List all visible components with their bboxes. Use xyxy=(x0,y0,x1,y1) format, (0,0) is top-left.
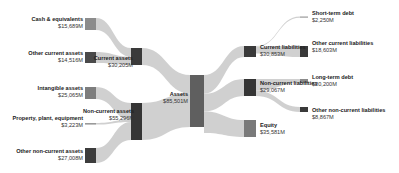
node-value-ppe: $3,223M xyxy=(61,122,83,128)
sankey-node-noncurrent_liab[interactable] xyxy=(244,79,256,96)
node-label-short_debt: Short-term debt xyxy=(312,10,354,16)
node-label-assets: Assets xyxy=(170,91,188,97)
node-label-other_ncl: Other non-current liabilities xyxy=(312,107,385,113)
node-value-current_liab: $30,853M xyxy=(260,51,285,57)
node-value-intangible: $25,065M xyxy=(58,92,83,98)
node-label-other_cl: Other current liabilities xyxy=(312,40,373,46)
node-value-noncurrent_assets: $55,296M xyxy=(109,115,134,121)
sankey-link-cash-to-current_assets xyxy=(96,18,131,57)
node-value-other_nca: $27,008M xyxy=(58,155,83,161)
sankey-node-cash[interactable] xyxy=(85,18,96,30)
node-value-other_ncl: $8,867M xyxy=(312,114,334,120)
node-label-long_debt: Long-term debt xyxy=(312,74,353,80)
sankey-node-assets[interactable] xyxy=(190,75,204,127)
node-value-noncurrent_liab: $29,067M xyxy=(260,87,285,93)
sankey-node-current_liab[interactable] xyxy=(244,46,256,57)
node-value-short_debt: $2,250M xyxy=(312,17,334,23)
node-label-equity: Equity xyxy=(260,122,278,128)
sankey-node-ppe[interactable] xyxy=(85,123,96,125)
node-label-intangible: Intangible assets xyxy=(38,85,83,91)
sankey-link-assets-to-equity xyxy=(204,111,244,137)
node-value-long_debt: $20,200M xyxy=(312,81,337,87)
node-value-assets: $85,501M xyxy=(163,98,188,104)
node-value-cash: $15,689M xyxy=(58,23,83,29)
sankey-link-current_liab-to-short_debt xyxy=(256,17,300,47)
node-label-noncurrent_liab: Non-current liabilities xyxy=(260,80,318,86)
node-label-current_liab: Current liabilities xyxy=(260,44,306,50)
sankey-link-other_nca-to-noncurrent_assets xyxy=(96,122,131,163)
sankey-node-equity[interactable] xyxy=(244,120,256,137)
node-label-current_assets: Current assets xyxy=(94,55,133,61)
node-value-equity: $35,581M xyxy=(260,129,285,135)
node-value-other_cl: $18,603M xyxy=(312,47,337,53)
sankey-node-other_ncl[interactable] xyxy=(300,107,308,112)
node-label-noncurrent_assets: Non-current assets xyxy=(83,108,134,114)
node-value-other_ca: $14,516M xyxy=(58,57,83,63)
sankey-link-noncurrent_liab-to-other_ncl xyxy=(256,91,300,112)
sankey-node-intangible[interactable] xyxy=(85,87,96,99)
sankey-diagram: Cash & equivalents$15,689MOther current … xyxy=(0,0,399,173)
sankey-link-current_assets-to-assets xyxy=(142,48,190,93)
node-label-other_nca: Other non-current assets xyxy=(16,148,83,154)
node-label-ppe: Property, plant, equipment xyxy=(13,115,84,121)
node-value-current_assets: $30,205M xyxy=(108,62,133,68)
sankey-node-other_nca[interactable] xyxy=(85,148,96,163)
sankey-node-short_debt[interactable] xyxy=(300,17,308,18)
node-label-cash: Cash & equivalents xyxy=(31,16,83,22)
node-label-other_ca: Other current assets xyxy=(28,50,83,56)
